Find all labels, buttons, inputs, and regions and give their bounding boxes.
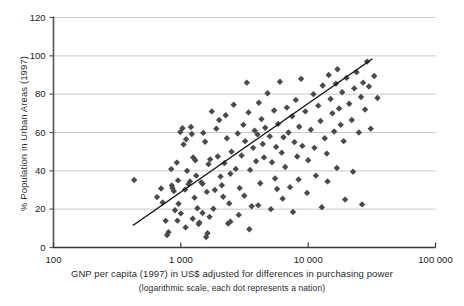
data-point (210, 206, 216, 212)
gridlines (54, 18, 436, 210)
data-point (216, 117, 222, 123)
data-point (269, 159, 275, 165)
data-point (158, 185, 164, 191)
data-point (235, 130, 241, 136)
data-point (295, 176, 301, 182)
data-point (154, 194, 160, 200)
data-point (248, 203, 254, 209)
data-point (194, 205, 200, 211)
data-point (189, 131, 195, 137)
data-point (258, 116, 264, 122)
data-point (293, 97, 299, 103)
data-point (175, 177, 181, 183)
data-point (242, 138, 248, 144)
data-point (188, 124, 194, 130)
data-point (324, 150, 330, 156)
data-point (371, 73, 377, 79)
x-tick-label: 10 000 (278, 254, 338, 265)
data-point (294, 153, 300, 159)
data-point (260, 141, 266, 147)
data-point (213, 125, 219, 131)
data-point (262, 125, 268, 131)
data-point (360, 79, 366, 85)
data-point (322, 135, 328, 141)
data-point (246, 226, 252, 232)
data-point (226, 200, 232, 206)
data-point (247, 167, 253, 173)
data-point (183, 136, 189, 142)
data-point (199, 210, 205, 216)
data-point (368, 125, 374, 131)
data-point (358, 94, 364, 100)
x-tick-label: 100 (24, 254, 84, 265)
data-point (346, 101, 352, 107)
data-point (271, 107, 277, 113)
data-point (212, 187, 218, 193)
data-point (319, 82, 325, 88)
data-point (219, 182, 225, 188)
scatter-chart-figure: 020406080100120 1001 00010 000100 000 % … (0, 0, 464, 306)
data-point (182, 224, 188, 230)
data-point (374, 95, 380, 101)
data-point (273, 144, 279, 150)
data-point (351, 85, 357, 91)
data-point (224, 135, 230, 141)
data-point (305, 157, 311, 163)
data-point (131, 177, 137, 183)
data-point (279, 195, 285, 201)
data-point (220, 194, 226, 200)
data-point (359, 201, 365, 207)
data-point (250, 145, 256, 151)
data-point (272, 175, 278, 181)
data-point (326, 72, 332, 78)
data-point (209, 108, 215, 114)
data-point (255, 202, 261, 208)
data-point (257, 180, 263, 186)
data-point (244, 79, 250, 85)
data-point (236, 212, 242, 218)
data-point (240, 122, 246, 128)
data-point (287, 184, 293, 190)
data-point (349, 117, 355, 123)
data-point (340, 138, 346, 144)
data-point (334, 66, 340, 72)
data-point (191, 194, 197, 200)
data-point (268, 206, 274, 212)
data-point (284, 104, 290, 110)
data-point (356, 129, 362, 135)
data-point (311, 145, 317, 151)
data-points-group (131, 58, 381, 240)
x-tick-label: 100 000 (406, 254, 464, 265)
data-point (204, 189, 210, 195)
data-point (298, 76, 304, 82)
data-point (277, 79, 283, 85)
data-point (238, 152, 244, 158)
data-point (215, 153, 221, 159)
data-point (313, 172, 319, 178)
data-point (241, 193, 247, 199)
data-point (162, 218, 168, 224)
data-point (174, 217, 180, 223)
data-point (200, 130, 206, 136)
data-point (291, 139, 297, 145)
data-point (285, 129, 291, 135)
data-point (280, 134, 286, 140)
data-point (261, 154, 267, 160)
data-point (193, 172, 199, 178)
data-point (206, 214, 212, 220)
data-point (310, 91, 316, 97)
x-tick-label: 1 000 (151, 254, 211, 265)
data-point (290, 209, 296, 215)
data-point (274, 186, 280, 192)
data-point (245, 109, 251, 115)
data-point (336, 105, 342, 111)
data-point (337, 122, 343, 128)
data-point (174, 159, 180, 165)
data-point (331, 128, 337, 134)
data-point (302, 108, 308, 114)
data-point (324, 178, 330, 184)
data-point (230, 102, 236, 108)
data-point (227, 171, 233, 177)
data-point (329, 110, 335, 116)
data-point (308, 126, 314, 132)
